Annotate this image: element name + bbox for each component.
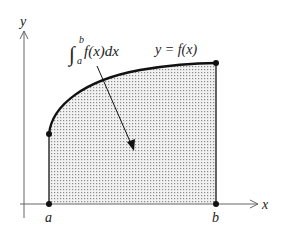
integral-sign: ∫ (67, 42, 76, 67)
curve-start-point (46, 131, 52, 137)
lower-bound-label: a (45, 210, 52, 225)
point-b (213, 201, 219, 207)
x-axis-label: x (261, 197, 269, 212)
point-a (46, 201, 52, 207)
upper-bound-label: b (212, 210, 219, 225)
integral-expression: ∫ b a f(x)dx (67, 34, 119, 67)
integral-diagram: y x a b y = f(x) ∫ b a f(x)dx (0, 0, 283, 233)
curve-end-point (213, 60, 219, 66)
integral-lower-limit: a (77, 55, 82, 66)
curve-label: y = f(x) (153, 42, 197, 58)
integrand: f(x)dx (84, 43, 119, 60)
area-region (49, 63, 216, 204)
y-axis-label: y (18, 14, 27, 29)
